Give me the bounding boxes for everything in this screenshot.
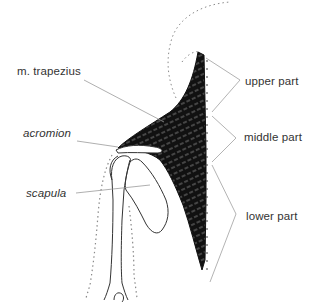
- trapezius-leader: [84, 80, 164, 122]
- label-middle-part: middle part: [244, 132, 302, 144]
- middle-part-bracket: [212, 116, 236, 162]
- arm-outline-right: [129, 206, 137, 298]
- humerus-condyle: [114, 293, 124, 302]
- arm-outline-left: [86, 155, 112, 298]
- label-trapezius: m. trapezius: [17, 66, 81, 78]
- humerus-bone: [104, 156, 118, 300]
- trapezius-diagram: m. trapezius acromion scapula upper part…: [0, 0, 311, 307]
- acromion-leader: [77, 141, 118, 147]
- label-acromion: acromion: [23, 128, 71, 140]
- label-scapula: scapula: [26, 188, 66, 200]
- illustration: [0, 0, 311, 307]
- label-lower-part: lower part: [246, 211, 298, 223]
- label-upper-part: upper part: [245, 76, 298, 88]
- scapula-bone: [125, 159, 168, 233]
- upper-part-bracket: [206, 58, 240, 112]
- lower-part-bracket: [210, 165, 236, 282]
